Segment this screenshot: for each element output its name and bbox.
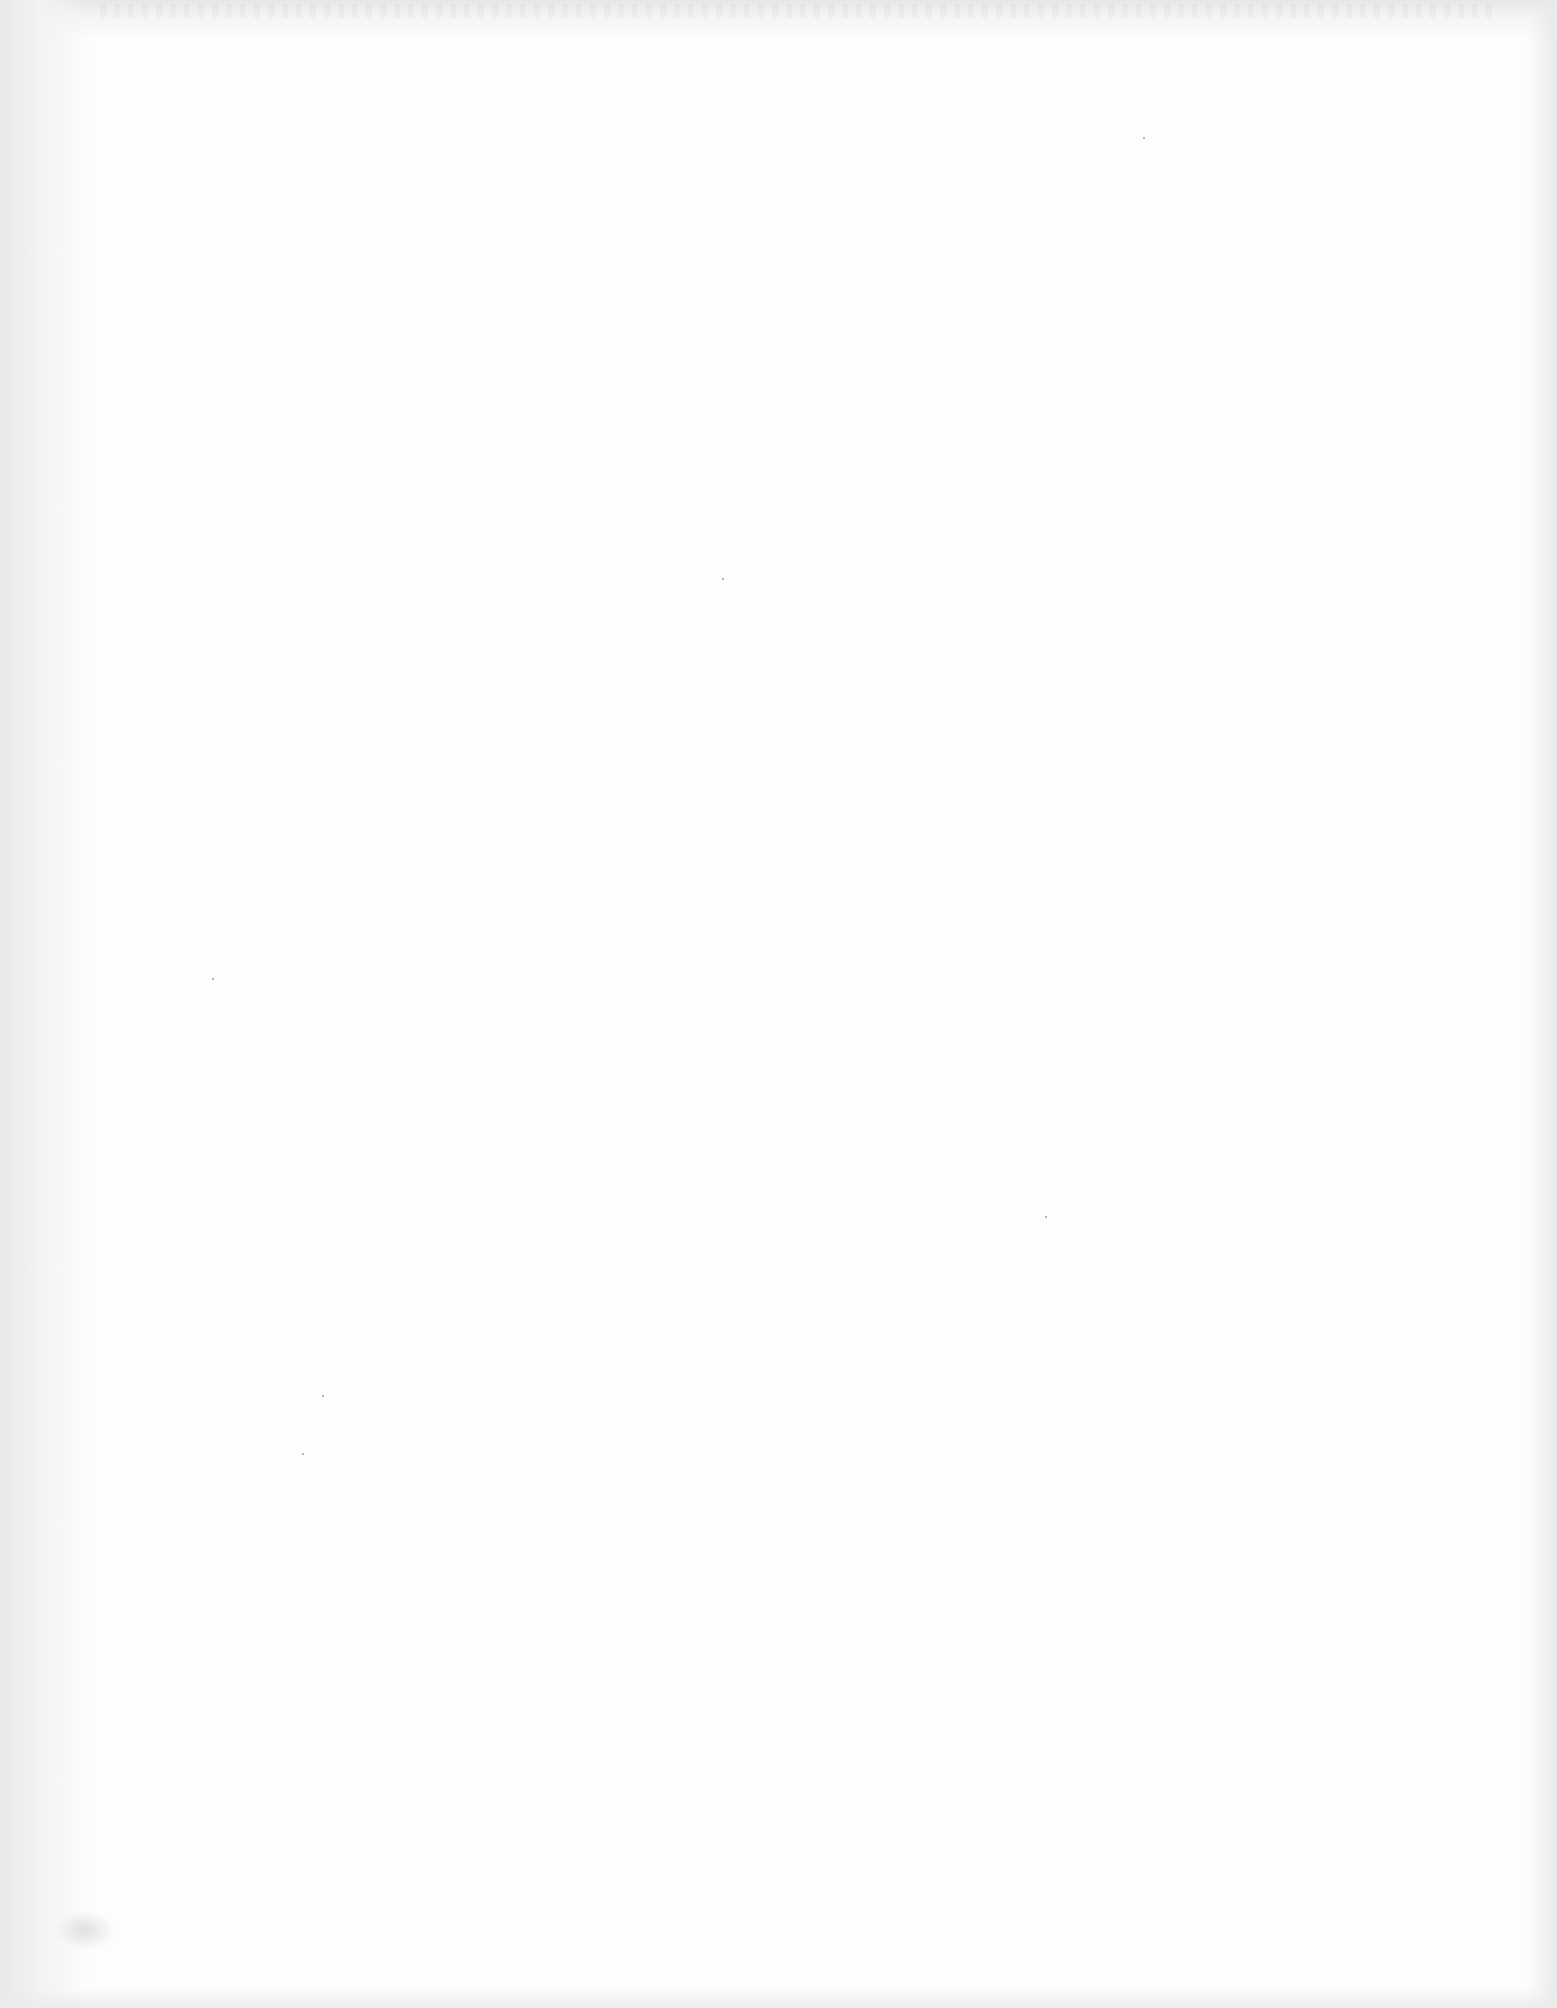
scan-speck — [322, 1395, 324, 1397]
bleed-through-marks — [100, 4, 1500, 18]
page-bottom-shadow — [0, 1988, 1557, 2008]
scan-smudge — [55, 1910, 115, 1950]
scan-speck — [302, 1453, 304, 1455]
scan-speck — [722, 578, 724, 580]
page-left-shadow — [0, 0, 90, 2008]
scan-speck — [212, 978, 214, 980]
blank-page — [0, 0, 1557, 2008]
page-right-shadow — [1527, 0, 1557, 2008]
scan-speck — [1045, 1216, 1047, 1218]
scan-speck — [1143, 137, 1145, 139]
